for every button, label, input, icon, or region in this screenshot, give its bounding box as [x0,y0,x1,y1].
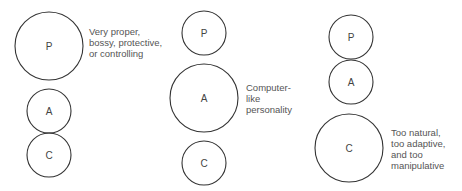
caption-line: or controlling [89,48,162,59]
figure-manipulative-child: P A C [315,15,383,182]
caption-line: and too [391,149,445,160]
adult-label: A [46,106,53,117]
figure-controlling-parent: P A C [15,12,83,177]
adult-label: A [201,93,208,104]
parent-label: P [46,41,53,52]
caption-line: Computer- [246,82,292,93]
caption-line: manipulative [391,160,445,171]
caption-line: like [246,93,292,104]
caption-line: bossy, protective, [89,37,162,48]
caption-line: Too natural, [391,127,445,138]
caption-line: too adaptive, [391,138,445,149]
parent-label: P [348,32,355,43]
child-label: C [45,150,52,161]
caption-line: Very proper, [89,26,162,37]
caption-controlling-parent: Very proper, bossy, protective, or contr… [89,26,162,59]
child-label: C [200,158,207,169]
caption-computer-adult: Computer- like personality [246,82,292,115]
figure-computer-adult: P A C [170,11,238,185]
child-label: C [345,143,352,154]
caption-line: personality [246,104,292,115]
adult-label: A [348,77,355,88]
caption-manipulative-child: Too natural, too adaptive, and too manip… [391,127,445,171]
parent-label: P [201,28,208,39]
